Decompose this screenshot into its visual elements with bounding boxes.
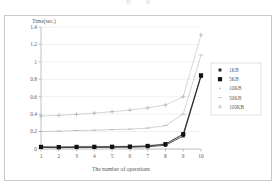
line-chart: 00.20.40.60.811.21.412345678910Time(sec.… <box>5 16 271 180</box>
x-tick-label: 8 <box>164 153 167 159</box>
bleed-glyph: a <box>146 0 150 6</box>
x-tick-label: 10 <box>198 153 204 159</box>
series-line <box>41 55 201 132</box>
x-tick-label: 2 <box>57 153 60 159</box>
bleed-glyph: b <box>126 0 131 6</box>
x-tick-label: 3 <box>75 153 78 159</box>
legend-label-5kb: 5KB <box>229 76 239 82</box>
legend-label-50kb: 50KB <box>229 95 242 101</box>
y-tick-label: 0.2 <box>30 128 37 134</box>
y-tick-label: 1.4 <box>30 24 37 30</box>
chart-plot-area: 00.20.40.60.811.21.412345678910Time(sec.… <box>5 16 271 180</box>
chart-legend: 1KB5KB10KB50KB100KB <box>211 63 261 115</box>
marker-square <box>128 144 132 148</box>
legend-label-1kb: 1KB <box>229 67 239 73</box>
y-tick-label: 1 <box>34 59 37 65</box>
marker-square <box>110 145 114 149</box>
legend-label-100kb: 100KB <box>229 104 245 110</box>
legend-label-10kb: 10KB <box>229 85 242 91</box>
x-tick-label: 6 <box>129 153 132 159</box>
y-tick-label: 0.6 <box>30 94 37 100</box>
series-50kb <box>39 55 203 132</box>
marker-square <box>74 145 78 149</box>
series-100kb <box>39 33 203 119</box>
series-line <box>41 35 201 116</box>
series-1kb <box>40 75 203 149</box>
page-bleed-fragments: ba <box>0 0 277 13</box>
x-tick-label: 5 <box>111 153 114 159</box>
y-axis-title: Time(sec.) <box>32 18 56 25</box>
x-tick-label: 4 <box>93 153 96 159</box>
figure-frame: 00.20.40.60.811.21.412345678910Time(sec.… <box>4 15 272 181</box>
y-tick-label: 0 <box>34 146 37 152</box>
y-tick-label: 1.2 <box>30 41 37 47</box>
marker-square <box>199 73 203 77</box>
y-tick-label: 0.8 <box>30 76 37 82</box>
marker-square <box>146 144 150 148</box>
marker-square <box>57 145 61 149</box>
series-line <box>41 75 201 147</box>
x-axis-title: The number of operations <box>92 166 150 172</box>
marker-square <box>218 77 222 81</box>
x-tick-label: 1 <box>40 153 43 159</box>
marker-square <box>181 132 185 136</box>
marker-faint-dot <box>219 87 221 89</box>
x-tick-label: 9 <box>182 153 185 159</box>
marker-square <box>39 145 43 149</box>
marker-dot <box>219 69 222 72</box>
marker-square <box>163 142 167 146</box>
x-tick-label: 7 <box>146 153 149 159</box>
marker-square <box>92 145 96 149</box>
series-5kb <box>39 73 203 149</box>
y-tick-label: 0.4 <box>30 111 37 117</box>
